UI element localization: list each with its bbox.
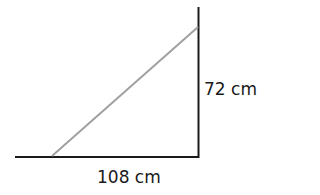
vertical-length-label: 72 cm xyxy=(204,79,257,99)
horizontal-length-label: 108 cm xyxy=(97,167,161,187)
hypotenuse-line xyxy=(52,27,198,156)
